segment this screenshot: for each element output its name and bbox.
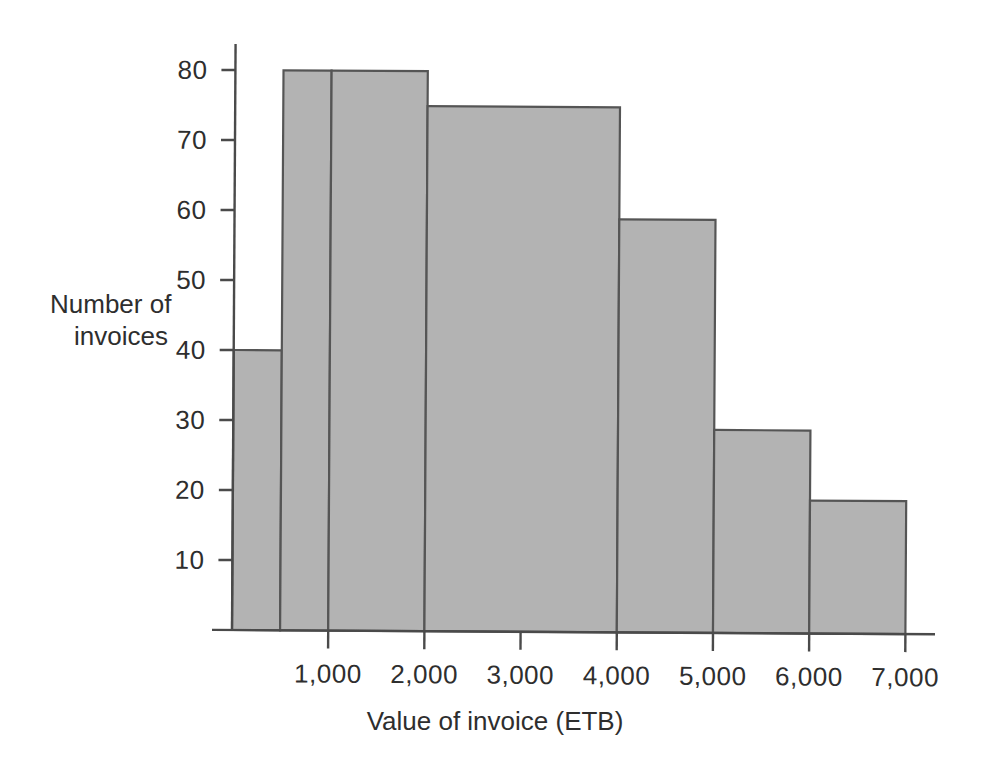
plot-skew-wrapper: 1020304050607080 1,0002,0003,0004,0005,0… [0, 0, 990, 768]
y-tick-label-10: 10 [174, 545, 204, 575]
y-axis-title: Number of invoices [48, 288, 220, 352]
x-tick-label-3000: 3,000 [486, 660, 554, 690]
y-tick-label-30: 30 [175, 405, 205, 435]
x-tick-label-4000: 4,000 [583, 660, 651, 690]
histogram-bar-6 [713, 430, 810, 634]
y-axis-title-line-1: Number of [48, 288, 220, 320]
x-tick-label-6000: 6,000 [775, 661, 843, 691]
x-tick-label-1000: 1,000 [294, 658, 362, 688]
y-tick-label-70: 70 [177, 125, 207, 155]
histogram-bar-7 [809, 501, 906, 635]
histogram-bar-1 [232, 350, 282, 630]
histogram-bar-4 [424, 106, 620, 632]
histogram-bar-2 [280, 70, 332, 630]
histogram-svg: 1020304050607080 1,0002,0003,0004,0005,0… [0, 0, 990, 768]
y-tick-label-20: 20 [175, 475, 205, 505]
x-tick-label-7000: 7,000 [871, 662, 939, 692]
x-tick-label-5000: 5,000 [679, 661, 747, 691]
histogram-bar-5 [617, 219, 716, 633]
histogram-figure: 1020304050607080 1,0002,0003,0004,0005,0… [0, 0, 990, 768]
y-tick-label-80: 80 [177, 55, 207, 85]
histogram-bar-3 [328, 71, 428, 632]
x-tick-group: 1,0002,0003,0004,0005,0006,0007,000 [294, 630, 939, 692]
y-tick-label-60: 60 [177, 195, 207, 225]
bars-group [232, 70, 909, 634]
x-axis-title: Value of invoice (ETB) [0, 706, 990, 737]
y-axis-title-line-2: invoices [48, 320, 220, 352]
x-tick-label-2000: 2,000 [390, 659, 458, 689]
